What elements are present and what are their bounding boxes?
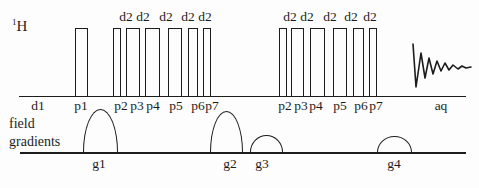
timing-label-p5-5: p5 [169,98,183,114]
timing-label-p4-4: p4 [146,98,160,114]
field-gradients-label-line1: field [9,115,60,133]
delay-label-d2-3: d2 [159,9,173,25]
pulse-sequence-diagram: 1H d2d2d2d2d2d2d2d2d2d2 d1p1p2p3p4p5p6p7… [0,0,479,188]
fid-signal-icon [0,0,479,188]
rf-pulse-p2a [113,28,121,97]
timing-label-aq-14: aq [435,98,448,114]
rf-pulse-p7b [369,28,377,97]
rf-pulse-p6b [353,28,364,97]
field-gradients-label-line2: gradients [9,133,60,151]
timing-label-p6-12: p6 [354,98,368,114]
gradient-channel-baseline [20,152,466,154]
rf-pulse-p3b [291,28,304,97]
rf-pulse-p5b [333,28,347,97]
delay-label-d2-5: d2 [198,9,212,25]
element-symbol: H [17,18,28,34]
delay-label-d2-2: d2 [136,9,150,25]
gradient-label-g4: g4 [387,156,401,172]
timing-label-p7-13: p7 [369,98,383,114]
timing-label-p7-7: p7 [205,98,219,114]
rf-pulse-p7a [203,28,211,97]
timing-label-p1-1: p1 [74,98,88,114]
rf-pulse-p5a [168,28,182,97]
rf-pulse-p4b [310,28,325,97]
gradient-label-g3: g3 [255,156,269,172]
gradient-pulse-g4 [377,136,412,152]
timing-label-p2-8: p2 [278,98,292,114]
delay-label-d2-6: d2 [283,9,297,25]
delay-label-d2-8: d2 [323,9,337,25]
delay-label-d2-10: d2 [363,9,377,25]
timing-label-p5-11: p5 [333,98,347,114]
timing-label-d1-0: d1 [31,98,45,114]
delay-label-d2-9: d2 [344,9,358,25]
rf-pulse-p6a [188,28,198,97]
delay-label-d2-4: d2 [181,9,195,25]
delay-label-d2-1: d2 [119,9,133,25]
timing-label-p6-6: p6 [191,98,205,114]
timing-label-p3-3: p3 [130,98,144,114]
timing-label-p2-2: p2 [114,98,128,114]
timing-label-p4-10: p4 [309,98,323,114]
gradient-label-g2: g2 [223,156,237,172]
gradient-pulse-g2 [210,111,243,152]
rf-pulse-p3a [126,28,140,97]
timing-label-p3-9: p3 [294,98,308,114]
delay-label-d2-7: d2 [300,9,314,25]
rf-pulse-p1 [75,28,88,97]
gradient-pulse-g3 [250,135,283,152]
gradient-pulse-g1 [83,109,118,152]
field-gradients-label: field gradients [9,115,60,151]
rf-pulse-p2b [279,28,287,97]
rf-pulse-p4a [145,28,160,97]
channel-1h-label: 1H [12,17,27,35]
gradient-label-g1: g1 [92,156,106,172]
